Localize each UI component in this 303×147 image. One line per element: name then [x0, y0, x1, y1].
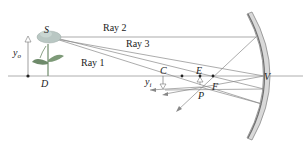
- object-arrowhead: [25, 36, 31, 42]
- ray-1-label: Ray 1: [81, 57, 105, 68]
- image-e-arrowhead: [197, 77, 203, 82]
- label-e: E: [195, 65, 202, 76]
- point-c-dot: [181, 75, 184, 78]
- label-v: V: [264, 71, 272, 82]
- ray-diagram: Ray 2 Ray 3 Ray 1 S D C E F P V yo yi: [0, 0, 303, 147]
- ray-1-incident: [56, 39, 262, 104]
- image-arrowhead: [160, 84, 166, 89]
- ray-from-vertex-arrowhead: [162, 92, 168, 96]
- flower-object: [32, 31, 64, 77]
- point-d-dot: [26, 74, 29, 77]
- ray-3-label: Ray 3: [126, 38, 150, 49]
- label-d: D: [40, 78, 49, 89]
- label-y-image: yi: [144, 76, 151, 89]
- label-c: C: [160, 65, 167, 76]
- label-s: S: [44, 24, 49, 35]
- label-f: F: [211, 81, 219, 92]
- ray-2-label: Ray 2: [103, 22, 127, 33]
- label-p: P: [197, 90, 204, 101]
- point-f-dot: [212, 75, 215, 78]
- label-y-object: yo: [12, 47, 21, 60]
